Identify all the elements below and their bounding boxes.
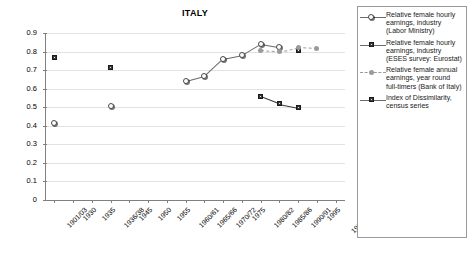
x-axis-tick xyxy=(92,200,93,203)
x-axis-tick xyxy=(204,200,205,203)
data-point xyxy=(296,105,301,110)
x-axis-tick xyxy=(54,200,55,203)
data-point xyxy=(52,55,57,60)
data-point xyxy=(277,49,282,54)
y-axis-tick xyxy=(43,144,47,145)
x-axis-tick xyxy=(298,200,299,203)
chart-title: ITALY xyxy=(45,8,345,18)
y-axis-tick-label: 0.1 xyxy=(27,176,37,185)
y-axis-line xyxy=(45,33,46,200)
y-axis-tick-label: 0.2 xyxy=(27,158,37,167)
legend-label: Relative female hourly earnings, industr… xyxy=(386,11,463,36)
x-axis-tick xyxy=(73,200,74,203)
y-axis-tick-label: 0.6 xyxy=(27,84,37,93)
x-axis-tick xyxy=(111,200,112,203)
x-axis-tick xyxy=(336,200,337,203)
data-point xyxy=(201,73,207,79)
legend-label: Relative female annual earnings, year ro… xyxy=(386,66,463,91)
legend-item: Index of Dissimilarity, census series xyxy=(360,94,463,110)
legend-marker xyxy=(360,67,386,78)
data-point xyxy=(296,45,301,50)
x-axis-tick xyxy=(317,200,318,203)
legend-label: Index of Dissimilarity, census series xyxy=(386,94,463,110)
gridline xyxy=(45,126,345,127)
chart-screenshot: ITALY 0.90.80.70.60.50.40.30.20.10 1901/… xyxy=(0,0,471,272)
legend-item: Relative female hourly earnings, industr… xyxy=(360,39,463,64)
y-axis-tick-label: 0.7 xyxy=(27,65,37,74)
plot-area xyxy=(45,33,345,200)
y-axis-tick xyxy=(43,181,47,182)
data-point xyxy=(239,52,245,58)
data-point xyxy=(220,56,226,62)
data-point xyxy=(314,46,319,51)
gridline xyxy=(45,144,345,145)
y-axis-tick-label: 0.9 xyxy=(27,28,37,37)
x-axis-tick-label: 1935 xyxy=(100,206,116,222)
data-point xyxy=(258,94,263,99)
data-point xyxy=(108,103,114,109)
y-axis-tick xyxy=(43,200,47,201)
x-axis-line xyxy=(45,200,345,201)
y-axis-tick xyxy=(43,70,47,71)
legend-item: Relative female annual earnings, year ro… xyxy=(360,66,463,91)
x-axis-tick xyxy=(279,200,280,203)
y-axis-tick xyxy=(43,89,47,90)
data-point xyxy=(258,41,264,47)
y-axis-tick-label: 0 xyxy=(33,195,37,204)
data-point xyxy=(108,65,113,70)
chart-container: ITALY 0.90.80.70.60.50.40.30.20.10 1901/… xyxy=(0,0,352,272)
y-axis-tick-label: 0.5 xyxy=(27,102,37,111)
legend-marker xyxy=(360,95,386,106)
y-axis-tick-label: 0.3 xyxy=(27,139,37,148)
legend-item: Relative female hourly earnings, industr… xyxy=(360,11,463,36)
data-point xyxy=(277,101,282,106)
legend-marker xyxy=(360,40,386,51)
legend-label: Relative female hourly earnings, industr… xyxy=(386,39,463,64)
x-axis-tick-label: 1955 xyxy=(175,206,191,222)
gridline xyxy=(45,70,345,71)
y-axis-tick-label: 0.4 xyxy=(27,121,37,130)
data-point xyxy=(258,48,263,53)
x-axis-tick xyxy=(223,200,224,203)
y-axis-tick xyxy=(43,126,47,127)
x-axis-tick xyxy=(242,200,243,203)
y-axis-tick xyxy=(43,107,47,108)
chart-legend: Relative female hourly earnings, industr… xyxy=(357,6,467,238)
x-axis-tick xyxy=(129,200,130,203)
data-point xyxy=(183,78,189,84)
legend-marker xyxy=(360,12,386,23)
gridline xyxy=(45,33,345,34)
y-axis-tick xyxy=(43,33,47,34)
gridline xyxy=(45,163,345,164)
x-axis-tick xyxy=(148,200,149,203)
x-axis-tick xyxy=(167,200,168,203)
gridline xyxy=(45,89,345,90)
y-axis-tick xyxy=(43,52,47,53)
y-axis-tick xyxy=(43,163,47,164)
x-axis-tick-label: 1950 xyxy=(157,206,173,222)
x-axis-tick xyxy=(261,200,262,203)
gridline xyxy=(45,181,345,182)
x-axis-tick xyxy=(186,200,187,203)
y-axis-tick-label: 0.8 xyxy=(27,47,37,56)
